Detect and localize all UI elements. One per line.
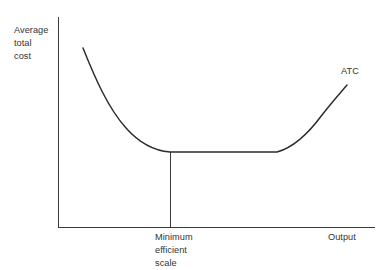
y-axis-label: Average total cost — [14, 24, 48, 64]
atc-curve-label: ATC — [341, 65, 359, 78]
chart-canvas — [0, 0, 383, 270]
average-total-cost-chart: Average total cost ATC Minimum efficient… — [0, 0, 383, 270]
x-axis-label: Output — [328, 231, 356, 244]
atc-curve — [83, 48, 347, 152]
minimum-efficient-scale-label: Minimum efficient scale — [155, 231, 193, 270]
